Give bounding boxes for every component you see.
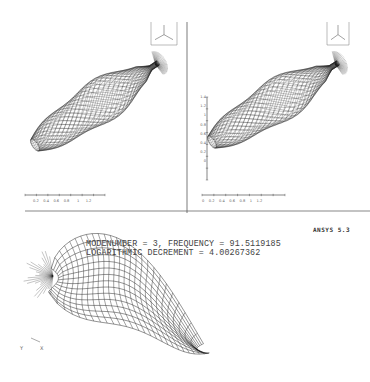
- figure: 0.2 0.4 0.6 0.8 1 1.2 0 0.2 0.4 0.6 0.8 …: [0, 0, 370, 382]
- deformed-mode-mesh-line: [49, 292, 209, 354]
- tick-label: 0.2: [209, 199, 215, 203]
- deformed-mode-mesh-line: [173, 302, 189, 353]
- tick-label: 0.6: [194, 132, 206, 136]
- right-body-mesh-helix: [213, 65, 339, 147]
- tick-label: 1.2: [86, 199, 92, 203]
- right-triad-icon-axis: [338, 35, 345, 40]
- deformed-mode-mesh-line: [70, 242, 80, 318]
- right-body-mesh-helix: [209, 63, 337, 142]
- bottom-triad-label-x: X: [40, 345, 43, 351]
- left-body-mesh-helix: [39, 63, 160, 146]
- software-version-label: ANSYS 5.3: [313, 226, 350, 233]
- left-body-mesh-helix: [32, 63, 157, 145]
- left-x-scale-labels: 0.2 0.4 0.6 0.8 1 1.2: [33, 199, 113, 203]
- tick-label: 0.4: [219, 199, 225, 203]
- deformed-fan-line: [36, 276, 53, 290]
- deformed-mode-mesh-line: [135, 249, 151, 336]
- right-body-mesh-fan-line: [335, 65, 346, 73]
- deformed-mode-mesh-line: [49, 269, 59, 293]
- left-body-mesh-helix: [36, 62, 159, 142]
- right-body-mesh-helix: [213, 62, 339, 139]
- right-body-mesh-helix: [213, 62, 339, 139]
- bottom-triad-icon: [31, 338, 40, 342]
- bottom-triad-label-y: Y: [20, 345, 23, 351]
- tick-label: 0: [202, 199, 204, 203]
- tick-label: 1: [194, 113, 206, 117]
- right-body-mesh-helix: [213, 65, 339, 147]
- deformed-mode-mesh-line: [191, 333, 205, 354]
- tick-label: 1: [77, 199, 79, 203]
- left-body-mesh-helix: [33, 64, 157, 148]
- mode-info-line-2: LOGARITHMIC DECREMENT = 4.00267362: [86, 249, 260, 258]
- left-body-mesh-helix: [31, 62, 157, 142]
- deformed-mode-mesh-line: [197, 344, 209, 354]
- tick-label: 0.6: [229, 199, 235, 203]
- tick-label: 0.6: [53, 199, 59, 203]
- tick-label: 0.8: [239, 199, 245, 203]
- right-y-scale-labels: 1.4 1.2 1 0.8 0.6 0.4 0.2 0: [194, 95, 206, 163]
- left-body-mesh-helix: [33, 64, 157, 148]
- tick-label: 0.4: [194, 141, 206, 145]
- deformed-mode-mesh-line: [64, 246, 73, 315]
- tick-label: 0: [194, 159, 206, 163]
- mesh-drawing: [0, 0, 370, 382]
- left-body-mesh-helix: [36, 62, 159, 142]
- right-body-mesh-fan-line: [335, 65, 347, 72]
- tick-label: 0.2: [33, 199, 39, 203]
- right-triad-icon-axis: [331, 35, 338, 40]
- right-body-mesh-helix: [210, 64, 337, 144]
- tick-label: 1: [250, 199, 252, 203]
- tick-label: 0.2: [194, 150, 206, 154]
- right-body-mesh-helix: [208, 62, 337, 139]
- right-x-scale-labels: 0 0.2 0.4 0.6 0.8 1 1.2: [202, 199, 292, 203]
- tick-label: 1.4: [194, 95, 206, 99]
- tick-label: 0.8: [64, 199, 70, 203]
- right-body-mesh-helix: [210, 64, 337, 144]
- deformed-mode-mesh-line: [49, 293, 210, 355]
- tick-label: 0.8: [194, 123, 206, 127]
- left-body-mesh-helix: [32, 63, 157, 145]
- left-triad-icon-axis: [164, 35, 173, 40]
- deformed-mode-mesh-line: [162, 284, 179, 350]
- left-body-mesh-helix: [31, 62, 157, 142]
- right-body-mesh-helix: [208, 62, 337, 139]
- tick-label: 0.4: [43, 199, 49, 203]
- left-body-mesh-helix: [39, 63, 160, 146]
- deformed-fan-line: [24, 276, 53, 281]
- right-body-mesh-helix: [209, 63, 337, 142]
- tick-label: 1.2: [256, 199, 262, 203]
- left-triad-icon-axis: [155, 35, 164, 40]
- tick-label: 1.2: [194, 104, 206, 108]
